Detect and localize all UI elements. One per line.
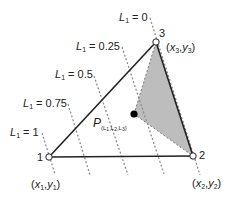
level-label-0.5: L1 = 0.5	[55, 69, 93, 81]
coord-x-sub: 1	[40, 184, 44, 191]
point-p-marker	[130, 110, 137, 117]
vertex-3-marker	[153, 39, 159, 45]
level-label-0.25: L1 = 0.25	[76, 41, 120, 53]
coord-y-sub: 3	[188, 47, 192, 54]
vertex-3-label: 3	[159, 28, 165, 39]
level-line-0.75	[68, 104, 90, 175]
level-label-0: L1 = 0	[119, 12, 148, 24]
vertex-1-label: 1	[37, 152, 43, 163]
vertex-2-coord: (x2,y2)	[192, 178, 221, 190]
shaded-subtriangle	[134, 42, 193, 156]
level-label-0.75: L1 = 0.75	[23, 98, 67, 110]
coord-x-sub: 3	[175, 47, 179, 54]
level-label-eq: = 0.5	[65, 68, 93, 80]
vertex-1-marker	[46, 154, 52, 160]
point-p-name: P	[93, 116, 101, 130]
level-label-eq: = 0.75	[33, 97, 67, 109]
coord-x-sub: 2	[201, 183, 205, 190]
point-p-label: P(L1,L2,L3)	[93, 117, 127, 132]
vertex-1-coord: (x1,y1)	[31, 179, 60, 191]
coord-y-sub: 2	[214, 183, 218, 190]
vertex-3-coord: (x3,y3)	[166, 42, 195, 54]
level-label-eq: = 0	[129, 11, 148, 23]
level-label-eq: = 1	[20, 126, 39, 138]
sub-part: )	[125, 125, 127, 131]
level-label-1: L1 = 1	[10, 127, 39, 139]
level-label-eq: = 0.25	[86, 40, 120, 52]
edge-1-2	[49, 156, 193, 157]
vertex-2-label: 2	[199, 150, 205, 161]
coord-y-sub: 1	[53, 184, 57, 191]
vertex-2-marker	[190, 153, 196, 159]
point-p-subscript: (L1,L2,L3)	[101, 125, 127, 131]
